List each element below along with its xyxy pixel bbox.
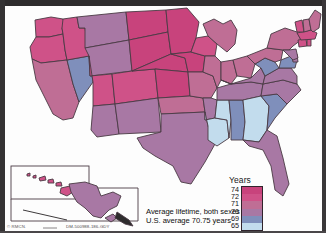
legend-swatch-74 — [242, 187, 262, 194]
pointer-line — [23, 210, 67, 220]
legend-swatch-72 — [242, 194, 262, 201]
state-WA[interactable] — [35, 17, 65, 37]
state-NY[interactable] — [267, 28, 301, 50]
legend-color-bar[interactable] — [241, 186, 263, 231]
state-AZ[interactable] — [91, 104, 119, 137]
state-OK[interactable] — [158, 96, 205, 114]
hawaii-inset[interactable] — [27, 173, 73, 196]
map-screenshot: Years 74 72 71 70 69 65 Average lifetime… — [0, 0, 326, 233]
state-KS[interactable] — [155, 69, 190, 98]
state-AL[interactable] — [229, 100, 245, 140]
map-caption: Average lifetime, both sexes U.S. averag… — [146, 208, 240, 225]
state-VT[interactable] — [295, 20, 304, 32]
state-NM[interactable] — [115, 98, 161, 134]
credit-left: © RMCN. — [7, 224, 26, 229]
alaska-inset[interactable] — [69, 182, 133, 226]
state-RI[interactable] — [307, 39, 311, 46]
legend-swatch-70 — [242, 209, 262, 216]
state-OR[interactable] — [30, 34, 67, 63]
legend-title: Years — [229, 175, 278, 185]
legend-swatch-65 — [242, 223, 262, 230]
credit-code: DM-500988-186-GDY — [66, 224, 110, 229]
legend-swatch-71 — [242, 201, 262, 208]
legend-swatch-69 — [242, 216, 262, 223]
scan-frame-right — [322, 0, 326, 233]
state-ME[interactable] — [309, 10, 321, 32]
scan-frame-bottom — [0, 231, 326, 233]
caption-line-2: U.S. average 70.75 years — [146, 217, 240, 226]
